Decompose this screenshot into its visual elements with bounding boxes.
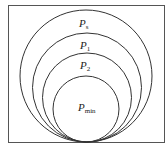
label-p-min: Pmin xyxy=(77,101,96,115)
label-p-1: P1 xyxy=(79,39,91,53)
label-p-s: Ps xyxy=(78,17,89,31)
nested-circles-diagram: PsP1P2Pmin xyxy=(0,0,168,147)
label-p-2: P2 xyxy=(79,59,91,73)
